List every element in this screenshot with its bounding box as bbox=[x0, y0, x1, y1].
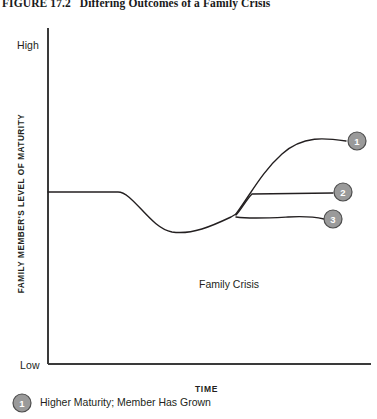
marker-2-label: 2 bbox=[340, 187, 345, 198]
marker-3[interactable]: 3 bbox=[324, 210, 342, 228]
y-axis-title: FAMILY MEMBER'S LEVEL OF MATURITY bbox=[17, 104, 26, 304]
marker-1-label: 1 bbox=[354, 136, 360, 147]
figure-title-text: Differing Outcomes of a Family Crisis bbox=[80, 0, 271, 9]
legend-marker-1: 1 bbox=[12, 393, 32, 413]
legend-item-text: Higher Maturity; Member Has Grown bbox=[40, 396, 211, 408]
curve-outcome-3 bbox=[236, 217, 324, 219]
curve-baseline-crisis bbox=[48, 192, 236, 233]
chart-plot-area: 1 2 3 High Low TIME FAMILY MEMBER'S LEVE… bbox=[0, 14, 377, 386]
marker-1[interactable]: 1 bbox=[348, 132, 366, 150]
chart-svg: 1 2 3 bbox=[0, 14, 377, 386]
figure-number: FIGURE 17.2 bbox=[2, 0, 71, 9]
figure-title: FIGURE 17.2Differing Outcomes of a Famil… bbox=[2, 0, 372, 10]
marker-2[interactable]: 2 bbox=[334, 183, 352, 201]
legend-marker-1-label: 1 bbox=[19, 398, 25, 409]
figure-legend: 1 Higher Maturity; Member Has Grown bbox=[0, 391, 377, 415]
curve-outcome-2 bbox=[236, 193, 333, 215]
y-axis-low-label: Low bbox=[20, 359, 40, 371]
curve-outcome-1 bbox=[236, 139, 346, 214]
y-axis-high-label: High bbox=[17, 39, 39, 51]
marker-3-label: 3 bbox=[330, 214, 335, 225]
figure-container: FIGURE 17.2Differing Outcomes of a Famil… bbox=[0, 0, 377, 419]
legend-item: 1 Higher Maturity; Member Has Grown bbox=[0, 391, 377, 415]
family-crisis-annotation: Family Crisis bbox=[199, 278, 259, 290]
